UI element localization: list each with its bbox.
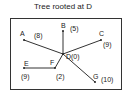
node-g-label: G (93, 73, 98, 80)
node-f-label: F (50, 59, 54, 66)
node-b-dot (62, 30, 64, 32)
edge-d-f (55, 54, 63, 68)
node-a-label: A (20, 30, 25, 37)
node-e-dot (23, 67, 25, 69)
edge-d-a (24, 40, 63, 54)
node-b-label: B (61, 22, 66, 29)
node-c-value: (9) (103, 41, 112, 49)
node-a-value: (8) (34, 32, 43, 40)
node-f-value: (2) (56, 73, 65, 81)
node-g-dot (94, 81, 96, 83)
node-b-value: (5) (70, 25, 79, 33)
node-d-value: (0) (71, 53, 80, 61)
node-c-label: C (99, 30, 104, 37)
node-e-label: E (24, 60, 29, 67)
node-f-dot (54, 67, 56, 69)
node-e-value: (9) (21, 73, 30, 81)
node-c-dot (100, 39, 102, 41)
tree-diagram: A (8) B (5) C (9) D (0) E (9) F (2) G (1… (0, 0, 126, 95)
node-g-value: (10) (101, 76, 113, 84)
edge-d-c (63, 40, 101, 54)
node-d-dot (62, 53, 64, 55)
node-a-dot (23, 39, 25, 41)
